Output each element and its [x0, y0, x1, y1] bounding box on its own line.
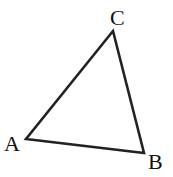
- vertex-label-c: C: [110, 5, 125, 30]
- vertex-label-b: B: [148, 149, 163, 174]
- triangle-abc: [26, 31, 144, 153]
- triangle-diagram: A B C: [0, 0, 173, 177]
- vertex-label-a: A: [4, 131, 20, 156]
- triangle-svg: A B C: [0, 0, 173, 177]
